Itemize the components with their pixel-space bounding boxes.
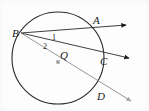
point-label-d: D <box>96 90 105 102</box>
geometry-canvas: B A C D Q 1 2 <box>0 0 149 111</box>
geometry-figure: B A C D Q 1 2 <box>0 0 149 111</box>
ray-b-to-c <box>21 33 129 58</box>
ray-b-to-a <box>21 25 126 33</box>
point-label-b: B <box>12 27 19 39</box>
angle-label-2: 2 <box>43 42 47 51</box>
angle-label-1: 1 <box>52 33 56 42</box>
point-label-a: A <box>92 14 100 26</box>
center-label-q: Q <box>60 49 68 61</box>
circle-q <box>12 12 104 104</box>
ray-b-through-q-to-d <box>21 33 131 101</box>
point-label-c: C <box>100 55 108 67</box>
